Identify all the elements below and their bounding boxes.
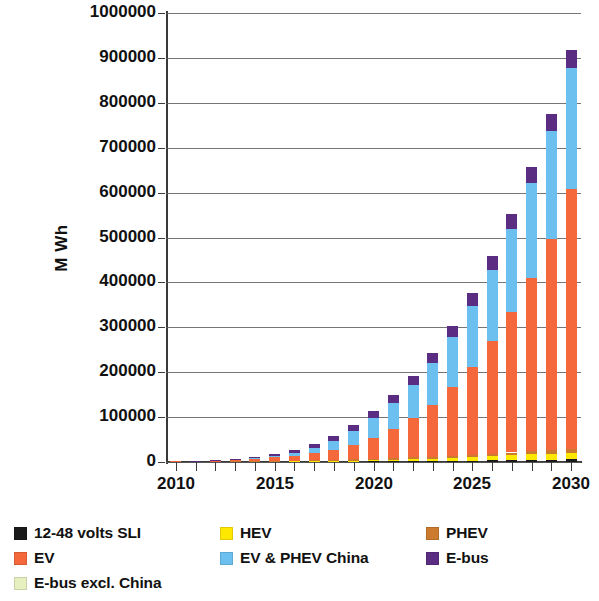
bar-segment [328, 460, 339, 461]
x-tick-mark [374, 462, 375, 471]
y-tick-mark [158, 327, 165, 328]
bar-segment [566, 50, 577, 68]
legend-item[interactable]: EV & PHEV China [220, 549, 369, 567]
bar-segment [467, 367, 478, 455]
legend-item[interactable]: HEV [220, 524, 272, 542]
bar-segment [447, 456, 458, 458]
y-tick-mark [158, 462, 165, 463]
bar-2013 [230, 13, 241, 462]
bar-segment [546, 450, 557, 453]
bar-segment [526, 183, 537, 278]
y-tick-label: 800000 [16, 92, 156, 112]
bar-segment [566, 68, 577, 188]
y-tick-label: 500000 [16, 227, 156, 247]
y-tick-label: 900000 [16, 47, 156, 67]
legend-label: PHEV [446, 524, 488, 542]
legend-swatch-icon [220, 552, 233, 565]
bar-segment [388, 458, 399, 460]
bar-segment [309, 460, 320, 461]
bar-segment [467, 293, 478, 306]
bar-segment [546, 454, 557, 460]
bar-segment [368, 459, 379, 460]
bar-segment [328, 436, 339, 441]
legend-swatch-icon [14, 577, 27, 590]
bar-segment [506, 455, 517, 460]
bar-segment [408, 457, 419, 459]
x-tick-mark [235, 462, 236, 471]
bar-segment [368, 411, 379, 418]
x-tick-mark [176, 462, 177, 471]
bar-2017 [309, 13, 320, 462]
x-tick-mark [472, 462, 473, 471]
bar-segment [427, 353, 438, 364]
legend-item[interactable]: PHEV [426, 524, 488, 542]
legend-item[interactable]: 12-48 volts SLI [14, 524, 141, 542]
bar-segment [348, 431, 359, 445]
bar-2027 [506, 13, 517, 462]
y-tick-mark [158, 148, 165, 149]
y-tick-mark [158, 238, 165, 239]
bar-segment [309, 453, 320, 460]
bar-segment [427, 457, 438, 459]
bar-segment [230, 459, 241, 460]
bar-segment [348, 445, 359, 460]
bar-segment [526, 167, 537, 183]
y-tick-mark [158, 282, 165, 283]
legend-swatch-icon [14, 552, 27, 565]
y-tick-label: 1000000 [16, 2, 156, 22]
bar-segment [487, 456, 498, 460]
legend-item[interactable]: EV [14, 549, 54, 567]
bar-2019 [348, 13, 359, 462]
legend-item[interactable]: E-bus [426, 549, 489, 567]
legend-swatch-icon [14, 527, 27, 540]
x-tick-mark [571, 462, 572, 471]
y-tick-label: 700000 [16, 137, 156, 157]
bar-segment [506, 214, 517, 229]
bar-segment [546, 131, 557, 239]
bar-2021 [388, 13, 399, 462]
x-tick-mark [354, 462, 355, 471]
plot-area [166, 13, 581, 462]
bar-segment [566, 453, 577, 460]
bar-segment [368, 418, 379, 438]
y-tick-mark [158, 372, 165, 373]
stacked-bar-chart: M Wh 01000002000003000004000005000006000… [0, 0, 599, 601]
bar-segment [289, 456, 300, 461]
bar-segment [408, 385, 419, 418]
legend-label: 12-48 volts SLI [34, 524, 141, 542]
y-tick-mark [158, 417, 165, 418]
x-tick-mark [275, 462, 276, 471]
bar-2015 [269, 13, 280, 462]
bar-segment [249, 458, 260, 459]
bar-segment [526, 454, 537, 459]
x-tick-mark [492, 462, 493, 471]
y-tick-label: 400000 [16, 271, 156, 291]
bar-segment [328, 450, 339, 460]
bar-segment [289, 453, 300, 456]
bar-segment [526, 451, 537, 454]
bar-segment [289, 450, 300, 453]
bar-2012 [210, 13, 221, 462]
x-tick-label: 2025 [437, 474, 507, 494]
bar-segment [427, 405, 438, 457]
bar-segment [269, 456, 280, 458]
legend-label: EV & PHEV China [240, 549, 369, 567]
legend-label: HEV [240, 524, 272, 542]
legend-swatch-icon [426, 527, 439, 540]
bar-segment [269, 457, 280, 461]
bar-segment [249, 459, 260, 461]
y-tick-mark [158, 193, 165, 194]
bar-segment [526, 278, 537, 451]
bar-segment [566, 449, 577, 453]
legend-swatch-icon [426, 552, 439, 565]
bar-2016 [289, 13, 300, 462]
bar-2022 [408, 13, 419, 462]
bar-segment [447, 458, 458, 461]
bar-2024 [447, 13, 458, 462]
bar-segment [249, 457, 260, 458]
legend-item[interactable]: E-bus excl. China [14, 574, 162, 592]
y-tick-label: 600000 [16, 182, 156, 202]
bar-2023 [427, 13, 438, 462]
bar-segment [506, 229, 517, 312]
bar-2030 [566, 13, 577, 462]
